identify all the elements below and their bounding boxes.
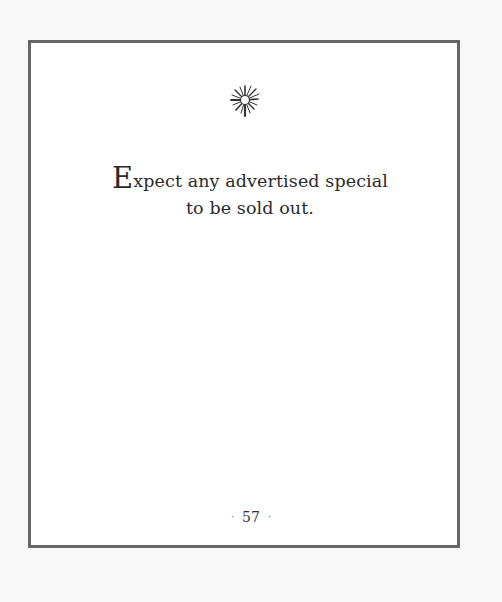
saying-line-2: to be sold out. [60,195,440,222]
starburst-icon [226,81,264,119]
saying-line-1-rest: xpect any advertised special [133,171,388,191]
page-number: ·57· [190,509,312,525]
page-number-separator-right: · [260,511,279,522]
page-number-separator-left: · [223,511,242,522]
page-number-value: 57 [242,509,260,525]
saying-line-1: Expect any advertised special [60,168,440,195]
drop-cap-letter: E [112,161,133,195]
saying-text: Expect any advertised special to be sold… [60,168,440,222]
